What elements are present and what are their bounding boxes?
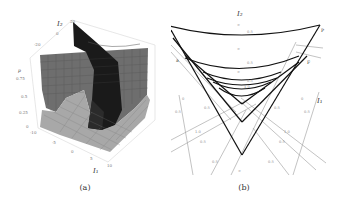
contour-label: 0.5: [247, 30, 253, 34]
axis-label-p: p: [18, 68, 21, 73]
contour-label: 0.5: [204, 106, 210, 110]
axis-label-i2: I₂: [56, 20, 63, 28]
caption-a: (a): [65, 183, 105, 192]
contour-label: ∞: [237, 70, 240, 74]
panel-b-diagram: I₂ I₁ a P F ∞ 0.5 ∞ 0.5 ∞ 0.5 1.0 0 0.5 …: [171, 0, 342, 207]
contour-label: 0: [301, 97, 304, 101]
contour-label: 1.0: [284, 130, 290, 134]
contour-label: 1.0: [244, 85, 250, 89]
tick-i1-5: 5: [90, 156, 93, 161]
tick-p-0: 0: [26, 124, 29, 129]
contour-label: 0.5: [200, 140, 206, 144]
contour-label: 0.5: [274, 106, 280, 110]
tick-i2-20: 20: [70, 19, 76, 24]
point-p: P: [321, 28, 324, 33]
tick-p-0-25: 0.25: [19, 110, 28, 115]
contour-label: 0.5: [212, 160, 218, 164]
axis-label-i2: I₂: [236, 10, 243, 18]
tick-i1-0: 0: [71, 149, 74, 154]
contour-diagram: I₂ I₁ a P F ∞ 0.5 ∞ 0.5 ∞ 0.5 1.0 0 0.5 …: [171, 0, 342, 207]
caption-b: (b): [224, 183, 264, 192]
axis-label-i1: I₁: [92, 167, 99, 175]
point-a: a: [176, 58, 179, 63]
surface-plot: I₂ I₁ p 20 0 -20 0.75 0.5 0.25 0 -10 -5 …: [0, 0, 171, 207]
contour-label: ∞: [237, 23, 240, 27]
contour-label: 0: [182, 97, 185, 101]
contour-label: 0.5: [247, 61, 253, 65]
contour-label: ∞: [237, 47, 240, 51]
contour-label: 0.5: [304, 110, 310, 114]
contour-label: 0.5: [247, 79, 253, 83]
contour-label: 1.0: [195, 130, 201, 134]
tick-i1-10: 10: [107, 163, 113, 168]
tick-i2-minus20: -20: [34, 42, 41, 47]
contour-label: 0.5: [268, 160, 274, 164]
contour-label: 0.5: [175, 110, 181, 114]
axis-label-i1: I₁: [316, 97, 323, 105]
tick-i1-minus5: -5: [52, 140, 56, 145]
contour-label: 0.5: [279, 140, 285, 144]
tick-p-0-75: 0.75: [16, 76, 25, 81]
point-f: F: [307, 60, 310, 65]
panel-a-3d-surface: I₂ I₁ p 20 0 -20 0.75 0.5 0.25 0 -10 -5 …: [0, 0, 171, 207]
contour-label: ∞: [238, 169, 241, 173]
tick-i1-minus10: -10: [30, 130, 37, 135]
tick-p-0-5: 0.5: [21, 94, 28, 99]
